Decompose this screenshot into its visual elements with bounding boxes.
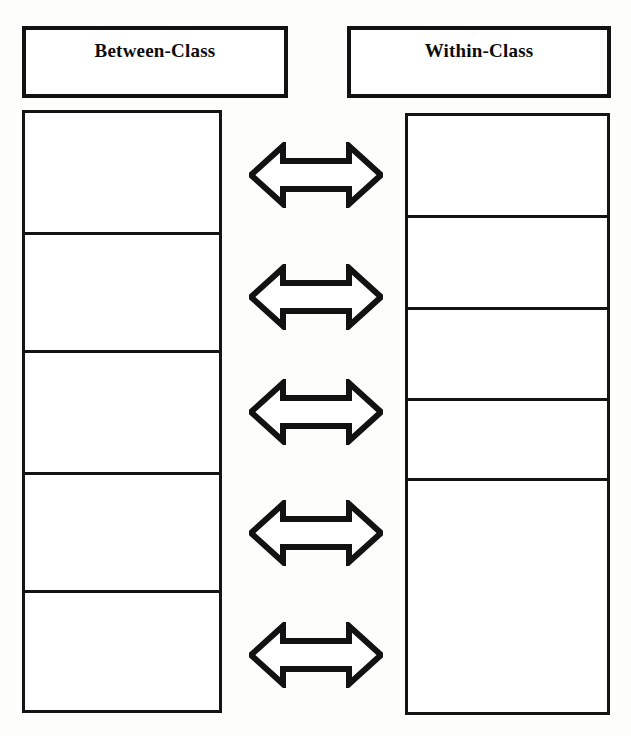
cell-right-3 [408, 310, 607, 401]
cell-left-5 [25, 593, 219, 710]
header-box-between-class: Between-Class [22, 26, 288, 98]
header-label-between-class: Between-Class [26, 41, 284, 60]
cell-right-5 [408, 481, 607, 712]
column-within-class [405, 113, 610, 715]
column-between-class [22, 110, 222, 713]
cell-left-4 [25, 475, 219, 593]
cell-left-1 [25, 113, 219, 235]
cell-left-3 [25, 353, 219, 475]
double-headed-arrow-icon-5 [249, 622, 383, 688]
cell-left-2 [25, 235, 219, 353]
double-headed-arrow-icon-1 [249, 142, 383, 208]
header-box-within-class: Within-Class [347, 26, 611, 98]
header-label-within-class: Within-Class [351, 41, 607, 60]
cell-right-4 [408, 401, 607, 481]
double-headed-arrow-icon-3 [249, 379, 383, 445]
double-headed-arrow-icon-2 [249, 264, 383, 330]
double-headed-arrow-icon-4 [249, 500, 383, 566]
cell-right-1 [408, 116, 607, 218]
cell-right-2 [408, 218, 607, 310]
diagram-page: Between-Class Within-Class [0, 0, 631, 736]
